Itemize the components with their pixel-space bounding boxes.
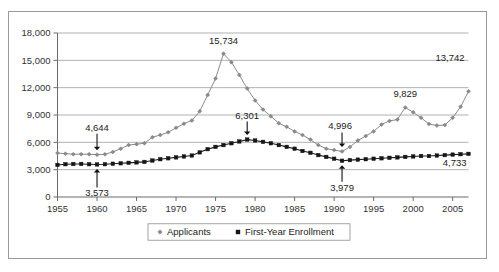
x-axis-tick-label: 2000: [403, 203, 424, 214]
chart-figure: 03,0006,0009,00012,00015,00018,000 19551…: [0, 0, 499, 272]
data-point-marker: [309, 151, 313, 155]
y-axis-ticks-group: [54, 33, 58, 197]
data-point-marker: [467, 152, 471, 156]
data-point-marker: [293, 147, 297, 151]
data-point-marker: [174, 126, 178, 130]
data-point-marker: [230, 141, 234, 145]
x-axis-labels-group: 1955196019651970197519801985199019952000…: [47, 203, 463, 214]
x-axis-tick-label: 1990: [324, 203, 345, 214]
data-point-marker: [214, 77, 218, 81]
data-point-marker: [459, 152, 463, 156]
data-point-marker: [71, 152, 75, 156]
annotation-arrow-head: [94, 147, 100, 151]
data-point-marker: [301, 149, 305, 153]
data-point-marker: [467, 89, 471, 93]
data-point-marker: [182, 122, 186, 126]
series-line-applicants: [58, 54, 469, 155]
data-point-marker: [111, 150, 115, 154]
x-axis-tick-label: 1995: [363, 203, 384, 214]
data-point-marker: [135, 142, 139, 146]
x-axis-ticks-group: [58, 197, 453, 201]
data-point-marker: [380, 156, 384, 160]
data-point-marker: [166, 156, 170, 160]
data-point-marker: [119, 147, 123, 151]
y-axis-tick-label: 18,000: [21, 27, 50, 38]
data-point-marker: [222, 143, 226, 147]
data-label-4733: 4,733: [443, 157, 467, 168]
data-point-marker: [206, 93, 210, 97]
data-point-marker: [332, 148, 336, 152]
data-point-marker: [72, 162, 76, 166]
data-point-marker: [135, 161, 139, 165]
y-axis-tick-label: 9,000: [27, 109, 51, 120]
data-point-marker: [237, 140, 241, 144]
x-axis-tick-label: 2005: [442, 203, 463, 214]
data-label-13742: 13,742: [435, 52, 464, 63]
legend-label-applicants: Applicants: [167, 226, 211, 237]
data-point-marker: [435, 123, 439, 127]
data-point-marker: [301, 133, 305, 137]
data-point-marker: [79, 162, 83, 166]
data-point-marker: [317, 153, 321, 157]
data-point-marker: [324, 155, 328, 159]
data-point-marker: [158, 133, 162, 137]
data-point-marker: [340, 149, 344, 153]
data-point-marker: [372, 157, 376, 161]
data-point-marker: [435, 154, 439, 158]
x-axis-tick-label: 1975: [205, 203, 226, 214]
data-point-marker: [396, 156, 400, 160]
data-label-4996: 4,996: [328, 120, 352, 131]
data-point-marker: [285, 125, 289, 129]
data-series-group: [56, 52, 471, 167]
data-label-15734: 15,734: [209, 35, 238, 46]
data-point-marker: [277, 143, 281, 147]
data-point-marker: [79, 152, 83, 156]
data-point-marker: [95, 163, 99, 167]
data-point-marker: [63, 152, 67, 156]
data-point-marker: [87, 162, 91, 166]
data-point-marker: [190, 154, 194, 158]
x-axis-tick-label: 1970: [165, 203, 186, 214]
legend-marker-first-year-enrollment: [236, 230, 240, 234]
x-axis-tick-label: 1965: [126, 203, 147, 214]
data-point-marker: [293, 129, 297, 133]
annotations-group: 4,6443,57315,7346,3014,9963,9799,82913,7…: [85, 35, 466, 199]
x-axis-tick-label: 1980: [245, 203, 266, 214]
data-label-4644: 4,644: [85, 122, 109, 133]
data-point-marker: [64, 162, 68, 166]
data-point-marker: [95, 153, 99, 157]
data-label-6301: 6,301: [235, 110, 259, 121]
data-point-marker: [332, 157, 336, 161]
data-point-marker: [348, 158, 352, 162]
data-point-marker: [214, 145, 218, 149]
annotation-arrow-head: [339, 143, 345, 147]
data-point-marker: [103, 152, 107, 156]
data-point-marker: [364, 134, 368, 138]
y-axis-tick-label: 6,000: [27, 137, 51, 148]
data-point-marker: [198, 151, 202, 155]
data-point-marker: [340, 159, 344, 163]
data-point-marker: [427, 154, 431, 158]
data-point-marker: [261, 140, 265, 144]
data-point-marker: [182, 155, 186, 159]
chart-legend: ApplicantsFirst-Year Enrollment: [148, 224, 350, 241]
data-point-marker: [87, 152, 91, 156]
line-chart-canvas: 03,0006,0009,00012,00015,00018,000 19551…: [0, 0, 499, 272]
data-point-marker: [324, 147, 328, 151]
data-point-marker: [56, 163, 60, 167]
y-axis-tick-label: 0: [45, 191, 50, 202]
data-label-3979: 3,979: [330, 182, 354, 193]
data-point-marker: [119, 161, 123, 165]
data-point-marker: [111, 162, 115, 166]
y-axis-tick-label: 3,000: [27, 164, 51, 175]
data-point-marker: [411, 155, 415, 159]
data-point-marker: [103, 162, 107, 166]
data-point-marker: [388, 156, 392, 160]
x-axis-tick-label: 1960: [86, 203, 107, 214]
data-point-marker: [56, 151, 60, 155]
data-point-marker: [127, 161, 131, 165]
data-point-marker: [245, 138, 249, 142]
data-point-marker: [151, 159, 155, 163]
data-point-marker: [166, 130, 170, 134]
data-point-marker: [174, 156, 178, 160]
